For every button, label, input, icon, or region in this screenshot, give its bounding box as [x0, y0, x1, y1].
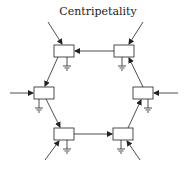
- ground-icon: [117, 140, 125, 153]
- edge-mid-right-to-top-right: [129, 58, 143, 87]
- node-bottom-right: [113, 128, 133, 140]
- ground-icon: [118, 57, 126, 70]
- ground-icon: [144, 99, 152, 112]
- input-arrow-top-left: [48, 22, 62, 44]
- ground-icon: [35, 99, 43, 112]
- ground-icon: [63, 57, 71, 70]
- node-bottom-left: [54, 128, 74, 140]
- input-arrow-top-right: [129, 22, 143, 44]
- node-mid-right: [133, 87, 153, 99]
- network-diagram: [0, 0, 188, 173]
- node-mid-left: [34, 87, 54, 99]
- edge-top-left-to-mid-left: [45, 57, 58, 86]
- node-top-left: [54, 45, 74, 57]
- ground-icon: [63, 140, 71, 153]
- diagram-canvas: Centripetality: [0, 0, 188, 173]
- edge-bottom-right-to-mid-right: [128, 100, 141, 128]
- edge-mid-left-to-bottom-left: [46, 99, 60, 127]
- input-arrow-bottom-right: [127, 141, 140, 160]
- input-arrow-bottom-left: [45, 141, 59, 160]
- node-top-right: [114, 45, 134, 57]
